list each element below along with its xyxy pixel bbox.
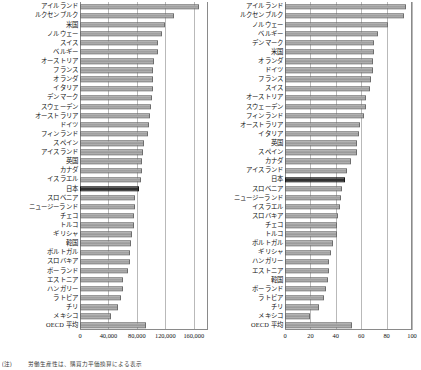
category-label: 韓国 [211, 277, 285, 283]
bar-track [285, 230, 421, 239]
bar [285, 22, 388, 27]
bar-row: カナダ [211, 157, 421, 166]
bar-track [80, 48, 210, 57]
bar-track [80, 221, 210, 230]
bar-track [80, 139, 210, 148]
bar-row: スイス [211, 84, 421, 93]
bar [80, 104, 151, 109]
bar-track [285, 20, 421, 29]
bar-track [285, 184, 421, 193]
bar-row: スペイン [0, 139, 210, 148]
x-tick-label: 0 [78, 333, 81, 339]
bar-highlight [80, 186, 139, 191]
bar-row: ラトビア [0, 294, 210, 303]
bar-row: ドイツ [211, 66, 421, 75]
bar [80, 31, 162, 36]
figure-footnote: (注)労働生産性は、購買力平価換算による表示 [2, 361, 417, 367]
category-label: チリ [211, 304, 285, 310]
category-label: スイス [211, 85, 285, 91]
bar-track [80, 212, 210, 221]
bar-track [285, 38, 421, 47]
bar-row: オーストラリア [211, 120, 421, 129]
bar-track [285, 312, 421, 321]
bar [285, 86, 370, 91]
bar-row: アイルランド [0, 2, 210, 11]
bar-row: ルクセンブルク [0, 11, 210, 20]
bar-row: イスラエル [211, 202, 421, 211]
bar-row: エストニア [0, 275, 210, 284]
x-tick-label: 100 [407, 333, 417, 339]
bar-track [80, 275, 210, 284]
bar-row: フランス [0, 66, 210, 75]
bar-track [80, 20, 210, 29]
bar-track [285, 84, 421, 93]
bar [285, 277, 328, 282]
bar [285, 286, 326, 291]
bar [80, 4, 199, 9]
bar-track [80, 321, 210, 330]
category-label: カナダ [0, 167, 80, 173]
category-label: オランダ [211, 58, 285, 64]
bar [80, 95, 152, 100]
bar-track [285, 266, 421, 275]
bar-row: ニュージーランド [211, 193, 421, 202]
bar [80, 304, 118, 309]
bar-track [285, 212, 421, 221]
bar [285, 150, 357, 155]
productivity-comparison-figure: アイルランドルクセンブルク米国ノルウェースイスベルギーオーストリアフランスオラン… [0, 0, 421, 370]
category-label: 日本 [211, 176, 285, 182]
category-label: アイルランド [211, 3, 285, 9]
bar-track [285, 29, 421, 38]
bar-row: 韓国 [0, 239, 210, 248]
left-x-axis: 040,00080,000120,000160,000 [80, 333, 208, 345]
bar-row: 日本 [211, 175, 421, 184]
category-label: オーストラリア [211, 122, 285, 128]
category-label: チェコ [211, 222, 285, 228]
bar-track [80, 29, 210, 38]
bar [285, 204, 340, 209]
bar-track [80, 38, 210, 47]
bar-track [80, 148, 210, 157]
category-label: フランス [0, 67, 80, 73]
bar-row: フィンランド [211, 111, 421, 120]
bar-track [285, 11, 421, 20]
bar-track [80, 266, 210, 275]
bar [285, 195, 341, 200]
category-label: ハンガリー [211, 258, 285, 264]
bar [285, 4, 406, 9]
category-label: ラトビア [0, 295, 80, 301]
category-label: イタリア [0, 85, 80, 91]
bar [285, 113, 364, 118]
bar-row: スロベニア [211, 184, 421, 193]
category-label: スロバキア [0, 258, 80, 264]
bar-row: イスラエル [0, 175, 210, 184]
category-label: イスラエル [211, 204, 285, 210]
category-label: OECD 平均 [0, 322, 80, 328]
bar-track [80, 66, 210, 75]
bar-row: デンマーク [211, 38, 421, 47]
bar [80, 13, 174, 18]
bar [80, 131, 148, 136]
bar-track [285, 148, 421, 157]
bar-track [80, 184, 210, 193]
bar [80, 113, 150, 118]
bar-row: 米国 [0, 20, 210, 29]
bar-highlight [285, 177, 345, 182]
bar-track [285, 48, 421, 57]
category-label: ギリシャ [0, 231, 80, 237]
bar-track [285, 57, 421, 66]
bar [80, 168, 142, 173]
bar [285, 259, 329, 264]
x-tick-label: 60 [358, 333, 364, 339]
bar-track [285, 303, 421, 312]
bar-track [285, 75, 421, 84]
bar-track [80, 230, 210, 239]
bar-track [80, 11, 210, 20]
bar [80, 140, 144, 145]
bar-row: スイス [0, 38, 210, 47]
footnote-mark: (注) [2, 361, 28, 367]
bar [80, 295, 121, 300]
bar-row: アイスランド [211, 166, 421, 175]
category-label: スロベニア [0, 195, 80, 201]
bar-track [285, 66, 421, 75]
